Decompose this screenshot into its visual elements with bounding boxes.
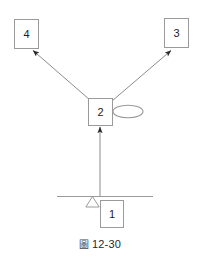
figure-caption: 圖 12-30: [0, 236, 200, 251]
node-box-2-label: 2: [97, 107, 103, 118]
figure-caption-prefix: 圖: [79, 239, 89, 250]
node-box-1-label: 1: [109, 209, 115, 220]
node-box-4[interactable]: 4: [14, 19, 39, 49]
ellipse-marker-icon: [113, 105, 143, 118]
figure-caption-number: 12-30: [92, 238, 121, 250]
node-box-3[interactable]: 3: [164, 18, 189, 48]
node-box-3-label: 3: [173, 28, 179, 39]
figure-container: 4 3 2 1 圖 12-30: [0, 0, 200, 262]
arrow-node2-to-node4: [33, 51, 90, 101]
pivot-triangle-icon: [86, 197, 99, 208]
arrow-node2-to-node3: [112, 51, 171, 102]
node-box-1[interactable]: 1: [100, 200, 124, 228]
node-box-2[interactable]: 2: [88, 98, 113, 126]
node-box-4-label: 4: [23, 29, 29, 40]
